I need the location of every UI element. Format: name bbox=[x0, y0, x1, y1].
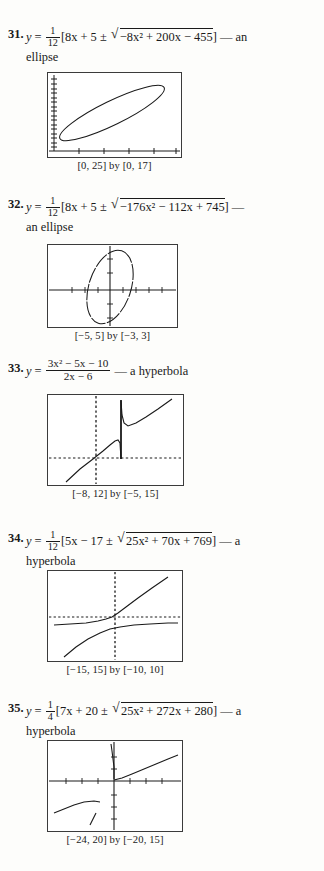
problem-32-classification-cont: an ellipse bbox=[0, 219, 324, 235]
hyperbola-upper-branch bbox=[54, 577, 168, 625]
radical-group: √25x² + 70x + 769 bbox=[117, 532, 212, 551]
radical-sign: √ bbox=[111, 197, 119, 211]
equals-sign: = bbox=[35, 30, 42, 44]
bracket-close: ] bbox=[225, 200, 229, 214]
fraction-denominator: 12 bbox=[46, 542, 60, 552]
problem-34: 34. y = 112[5x − 17 ± √25x² + 70x + 769]… bbox=[0, 530, 324, 569]
em-dash: — bbox=[219, 534, 231, 548]
ellipse-curve bbox=[55, 77, 170, 149]
equals-sign: = bbox=[35, 364, 42, 378]
calculator-screen bbox=[47, 72, 182, 158]
problem-31-number: 31. bbox=[8, 26, 24, 43]
lhs-variable: y bbox=[26, 30, 32, 44]
radical-group: √−176x² − 112x + 745 bbox=[111, 198, 225, 217]
problem-33-window-caption: [−8, 12] by [−5, 15] bbox=[47, 488, 184, 499]
problem-33: 33. y = 3x² − 5x − 102x − 6 — a hyperbol… bbox=[0, 358, 324, 383]
problem-34-statement: 34. y = 112[5x − 17 ± √25x² + 70x + 769]… bbox=[0, 530, 324, 553]
lhs-variable: y bbox=[26, 200, 32, 214]
hyperbola-lower-branch bbox=[64, 623, 178, 657]
fraction-one-twelfth: 112 bbox=[46, 196, 60, 219]
bracket-close: ] bbox=[212, 534, 216, 548]
radical-group: √−8x² + 200x − 455 bbox=[111, 28, 213, 47]
fraction-numerator: 1 bbox=[46, 530, 60, 540]
calculator-screen bbox=[47, 244, 178, 328]
fraction-one-twelfth: 112 bbox=[46, 26, 60, 49]
pre-radical-terms: 8x + 5 ± bbox=[65, 30, 107, 44]
problem-32-statement: 32. y = 112[8x + 5 ± √−176x² − 112x + 74… bbox=[0, 196, 324, 219]
hyperbola-upper-right-branch bbox=[114, 755, 178, 780]
problem-34-number: 34. bbox=[8, 530, 24, 547]
problem-35-graph: [−24, 20] by [−20, 15] bbox=[47, 740, 183, 845]
graph-svg bbox=[48, 73, 181, 157]
equals-sign: = bbox=[35, 534, 42, 548]
problem-35: 35. y = 14[7x + 20 ± √25x² + 272x + 280]… bbox=[0, 700, 324, 739]
problem-34-window-caption: [−15, 15] by [−10, 10] bbox=[47, 664, 183, 675]
radical-sign: √ bbox=[111, 27, 119, 41]
fraction-denominator: 4 bbox=[46, 712, 55, 722]
hyperbola-right-branch bbox=[121, 399, 172, 426]
classification-start: a bbox=[235, 534, 241, 548]
graph-svg bbox=[48, 571, 182, 661]
classification: a hyperbola bbox=[130, 364, 188, 378]
rational-fraction: 3x² − 5x − 102x − 6 bbox=[46, 358, 111, 383]
problem-31-graph: [0, 25] by [0, 17] bbox=[47, 72, 182, 171]
fraction-denominator: 2x − 6 bbox=[46, 371, 111, 382]
problem-32-window-caption: [−5, 5] by [−3, 3] bbox=[47, 330, 178, 341]
lhs-variable: y bbox=[26, 704, 32, 718]
problem-32-equation: y = 112[8x + 5 ± √−176x² − 112x + 745] — bbox=[26, 200, 244, 214]
problem-31-equation: y = 112[8x + 5 ± √−8x² + 200x − 455] — a… bbox=[26, 30, 247, 44]
problem-32-number: 32. bbox=[8, 196, 24, 213]
hyperbola-lower-fragment bbox=[90, 813, 96, 825]
problem-33-number: 33. bbox=[8, 358, 24, 378]
problem-34-equation: y = 112[5x − 17 ± √25x² + 70x + 769] — a bbox=[26, 534, 240, 548]
fraction-denominator: 12 bbox=[46, 38, 60, 48]
radicand: 25x² + 70x + 769 bbox=[126, 532, 212, 551]
pre-radical-terms: 5x − 17 ± bbox=[65, 534, 113, 548]
graph-svg bbox=[48, 245, 177, 327]
problem-34-classification-cont: hyperbola bbox=[0, 553, 324, 569]
hyperbola-left-branch bbox=[66, 440, 121, 482]
problem-31: 31. y = 112[8x + 5 ± √−8x² + 200x − 455]… bbox=[0, 26, 324, 65]
classification-start: a bbox=[236, 704, 242, 718]
calculator-screen bbox=[47, 740, 183, 832]
problem-35-classification-cont: hyperbola bbox=[0, 723, 324, 739]
equals-sign: = bbox=[35, 704, 42, 718]
em-dash: — bbox=[115, 364, 127, 378]
fraction-numerator: 3x² − 5x − 10 bbox=[46, 358, 111, 369]
fraction-numerator: 1 bbox=[46, 196, 60, 206]
problem-34-graph: [−15, 15] by [−10, 10] bbox=[47, 570, 183, 675]
problem-35-equation: y = 14[7x + 20 ± √25x² + 272x + 280] — a bbox=[26, 704, 241, 718]
radical-sign: √ bbox=[117, 531, 125, 545]
equals-sign: = bbox=[35, 200, 42, 214]
radicand: 25x² + 272x + 280 bbox=[121, 702, 213, 721]
calculator-screen bbox=[47, 394, 184, 486]
problem-35-window-caption: [−24, 20] by [−20, 15] bbox=[47, 834, 183, 845]
graph-svg bbox=[48, 741, 182, 831]
problem-32-graph: [−5, 5] by [−3, 3] bbox=[47, 244, 178, 341]
problem-33-graph: [−8, 12] by [−5, 15] bbox=[47, 394, 184, 499]
fraction-one-twelfth: 112 bbox=[46, 530, 60, 553]
problem-32: 32. y = 112[8x + 5 ± √−176x² − 112x + 74… bbox=[0, 196, 324, 235]
fraction-numerator: 1 bbox=[46, 26, 60, 36]
em-dash: — bbox=[232, 200, 244, 214]
fraction-one-fourth: 14 bbox=[46, 700, 55, 723]
fraction-denominator: 12 bbox=[46, 208, 60, 218]
problem-35-statement: 35. y = 14[7x + 20 ± √25x² + 272x + 280]… bbox=[0, 700, 324, 723]
classification-start: an bbox=[235, 30, 247, 44]
problem-31-statement: 31. y = 112[8x + 5 ± √−8x² + 200x − 455]… bbox=[0, 26, 324, 49]
radicand: −176x² − 112x + 745 bbox=[120, 198, 225, 217]
problem-31-classification-cont: ellipse bbox=[0, 49, 324, 65]
radicand: −8x² + 200x − 455 bbox=[120, 28, 213, 47]
bracket-close: ] bbox=[213, 30, 217, 44]
radical-sign: √ bbox=[112, 701, 120, 715]
problem-35-number: 35. bbox=[8, 700, 24, 717]
em-dash: — bbox=[220, 30, 232, 44]
fraction-numerator: 1 bbox=[46, 700, 55, 710]
problem-33-equation: y = 3x² − 5x − 102x − 6 — a hyperbola bbox=[26, 364, 188, 378]
radical-group: √25x² + 272x + 280 bbox=[112, 702, 213, 721]
problem-33-statement: 33. y = 3x² − 5x − 102x − 6 — a hyperbol… bbox=[0, 358, 324, 383]
bracket-close: ] bbox=[213, 704, 217, 718]
graph-svg bbox=[48, 395, 183, 485]
em-dash: — bbox=[220, 704, 232, 718]
textbook-page: 31. y = 112[8x + 5 ± √−8x² + 200x − 455]… bbox=[0, 0, 324, 871]
